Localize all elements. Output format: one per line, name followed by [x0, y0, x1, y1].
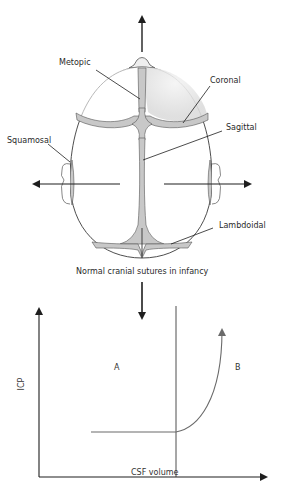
x-axis-label: CSF volume [131, 469, 178, 477]
metopic-suture [138, 68, 146, 112]
anterior-fontanelle-bump [129, 58, 155, 69]
cranial-sutures-figure: Metopic Coronal Sagittal Squamosal Lambd… [0, 0, 281, 484]
label-squamosal: Squamosal [7, 137, 51, 145]
icp-volume-graph [39, 306, 266, 477]
icp-curve [91, 330, 222, 432]
label-metopic: Metopic [59, 59, 91, 67]
label-lambdoidal: Lambdoidal [219, 222, 266, 230]
region-label-b: B [235, 364, 241, 372]
y-axis-label: ICP [18, 378, 26, 391]
region-label-a: A [114, 364, 119, 372]
figure-graphics [0, 0, 281, 484]
label-sagittal: Sagittal [226, 124, 257, 132]
diagram-caption: Normal cranial sutures in infancy [76, 268, 208, 276]
label-coronal: Coronal [210, 77, 241, 85]
